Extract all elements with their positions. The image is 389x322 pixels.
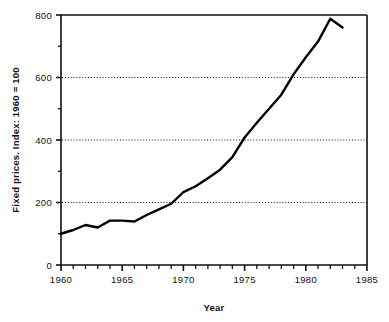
- x-axis-tick-labels: 196019651970197519801985: [50, 274, 378, 285]
- x-tick-label-1965: 1965: [111, 274, 133, 285]
- x-axis-title: Year: [204, 302, 225, 313]
- chart-figure: 0200400600800 196019651970197519801985 F…: [0, 0, 389, 322]
- x-tick-label-1970: 1970: [172, 274, 194, 285]
- y-tick-label-200: 200: [35, 197, 52, 208]
- y-tick-label-800: 800: [35, 10, 52, 21]
- x-tick-label-1975: 1975: [233, 274, 255, 285]
- y-axis-tick-labels: 0200400600800: [35, 10, 52, 271]
- y-tick-label-600: 600: [35, 72, 52, 83]
- y-tick-label-400: 400: [35, 135, 52, 146]
- x-tick-label-1960: 1960: [50, 274, 72, 285]
- x-axis-ticks: [61, 265, 367, 271]
- y-tick-label-0: 0: [46, 260, 52, 271]
- y-axis-title: Fixed prices. Index: 1960 = 100: [10, 67, 21, 212]
- x-tick-label-1980: 1980: [295, 274, 317, 285]
- x-tick-label-1985: 1985: [356, 274, 378, 285]
- line-chart: 0200400600800 196019651970197519801985 F…: [0, 0, 389, 322]
